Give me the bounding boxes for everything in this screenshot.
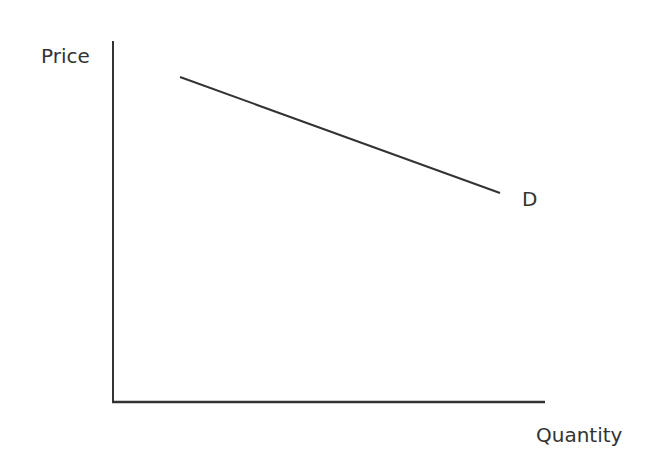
y-axis-label: Price — [41, 46, 90, 66]
chart-canvas — [0, 0, 657, 450]
curve-label: D — [522, 189, 537, 209]
x-axis-label: Quantity — [536, 425, 622, 445]
demand-curve — [180, 77, 500, 193]
